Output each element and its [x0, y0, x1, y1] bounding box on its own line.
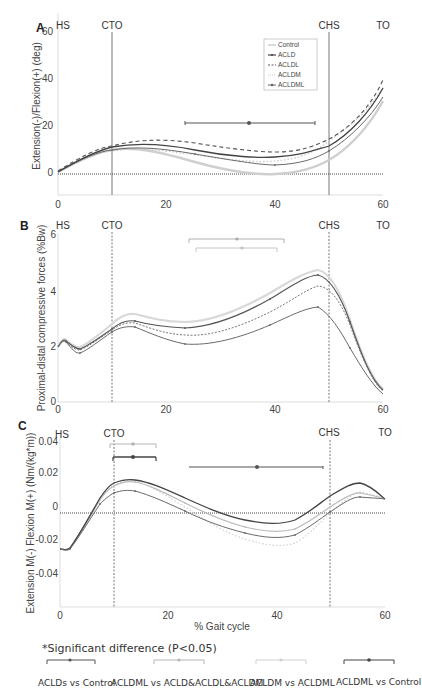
a-event-chs: CHS: [318, 20, 339, 31]
figure-svg: A 60 40 20 0 0 20 40 60 Extension(-)/Fle…: [0, 0, 422, 694]
key-bar-acld-vs-control: [47, 658, 95, 664]
legend-acldl: ACLDL: [278, 61, 299, 68]
panel-b-label: B: [20, 219, 29, 233]
c-significance-bar-1: [110, 442, 156, 448]
footer-key-bars: [47, 658, 394, 664]
b-significance-bar-1: [189, 237, 284, 243]
b-series-acldml: [58, 307, 383, 394]
panel-a: A 60 40 20 0 0 20 40 60 Extension(-)/Fle…: [31, 13, 390, 210]
c-event-cto: CTO: [104, 428, 125, 439]
a-series-acldm: [58, 87, 383, 172]
key-bar-acldml-vs-all: [154, 658, 204, 664]
c-xtick-40: 40: [271, 610, 283, 621]
b-xtick-60: 60: [377, 404, 389, 415]
c-significance-bar-2: [113, 455, 156, 461]
a-series-acldml: [58, 97, 383, 172]
legend-acld: ACLD: [278, 51, 296, 58]
b-significance-bar-2: [196, 246, 277, 252]
a-significance-bar: [185, 121, 315, 125]
b-event-chs: CHS: [318, 220, 339, 231]
a-xtick-0: 0: [55, 199, 61, 210]
a-ytick-40: 40: [42, 73, 54, 84]
a-event-to: TO: [376, 20, 390, 31]
b-y-axis-label: Proximal-distal compressive forces (%Bw): [36, 225, 47, 412]
b-xtick-40: 40: [269, 404, 281, 415]
a-event-hs: HS: [56, 20, 70, 31]
c-xtick-60: 60: [379, 610, 391, 621]
c-event-chs: CHS: [318, 427, 339, 438]
b-series-acldl: [58, 286, 383, 391]
legend-acldml: ACLDML: [278, 81, 305, 88]
c-y-axis-label: Extension M(-) Flexion M(+) (Nm/(kg*m)): [25, 433, 36, 614]
legend-control: Control: [278, 41, 300, 48]
key-bar-acldm-vs-acldml: [256, 658, 306, 664]
a-ytick-0: 0: [47, 167, 53, 178]
a-series-control: [58, 101, 383, 174]
panel-b: B 6 4 2 0 0 20 40 60 Proximal-distal com…: [20, 219, 390, 415]
a-legend: Control ACLD ACLDL ACLDM ACLDML: [264, 39, 317, 90]
key-label-acldml-vs-all: ACLDML vs ACLD&ACLDL&ACLDM: [111, 678, 263, 688]
key-label-acldm-vs-acldml: ACLDM vs ACLDML: [250, 678, 335, 688]
b-series-acld: [58, 275, 383, 390]
c-event-hs: HS: [55, 429, 69, 440]
a-y-axis-label: Extension(-)/Flexion(+) (deg): [31, 42, 42, 170]
legend-acldm: ACLDM: [278, 71, 301, 78]
a-event-cto: CTO: [102, 20, 123, 31]
key-bar-acldml-vs-control: [344, 658, 394, 664]
c-significance-bar-3: [189, 465, 323, 469]
b-event-hs: HS: [56, 220, 70, 231]
c-series-control: [60, 481, 385, 550]
panel-c-label: C: [18, 419, 27, 433]
b-event-cto: CTO: [102, 220, 123, 231]
c-xtick-20: 20: [162, 610, 174, 621]
a-ytick-60: 60: [42, 26, 54, 37]
key-label-acldml-vs-control: ACLDML vs Control: [336, 677, 421, 687]
b-xtick-0: 0: [55, 404, 61, 415]
b-ytick-2: 2: [50, 341, 56, 352]
a-xtick-40: 40: [269, 199, 281, 210]
c-ytick-0.02: 0.02: [39, 467, 59, 478]
b-event-to: TO: [376, 220, 390, 231]
panel-c: C 0.04 0.02 0 -0.02 -0.04 0 20 40 60 % G…: [18, 419, 392, 632]
a-series-acld: [58, 88, 383, 172]
significance-note: *Significant difference (P<0.05): [42, 642, 217, 655]
a-xtick-20: 20: [160, 199, 172, 210]
c-x-axis-label: % Gait cycle: [194, 621, 250, 632]
b-xtick-20: 20: [160, 404, 172, 415]
a-ytick-20: 20: [42, 120, 54, 131]
c-xtick-0: 0: [57, 610, 63, 621]
b-ytick-4: 4: [50, 286, 56, 297]
c-ytick-0: 0: [52, 501, 58, 512]
a-xtick-60: 60: [377, 199, 389, 210]
c-event-to: TO: [378, 427, 392, 438]
c-ytick-minus-0.04: -0.04: [35, 568, 58, 579]
c-ytick-minus-0.02: -0.02: [35, 534, 58, 545]
key-label-acld-vs-control: ACLDs vs Control: [38, 678, 115, 688]
